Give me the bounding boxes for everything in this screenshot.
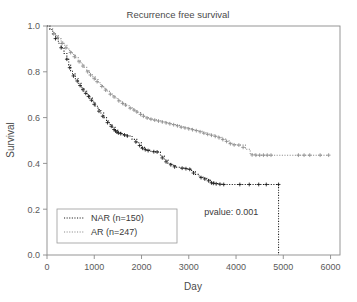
x-tick-label: 1000 bbox=[84, 262, 104, 272]
x-tick-label: 3000 bbox=[179, 262, 199, 272]
x-tick-label: 4000 bbox=[226, 262, 246, 272]
x-tick-label: 0 bbox=[44, 262, 49, 272]
legend-box: NAR (n=150)AR (n=247) bbox=[57, 209, 177, 243]
y-tick-label: 1.0 bbox=[27, 21, 40, 31]
chart-canvas: Recurrence free survival 010002000300040… bbox=[0, 0, 357, 302]
y-tick-label: 0.0 bbox=[27, 250, 40, 260]
y-axis-title: Survival bbox=[5, 122, 16, 158]
x-axis-title: Day bbox=[184, 281, 202, 292]
survival-chart: Recurrence free survival 010002000300040… bbox=[0, 0, 357, 302]
x-tick-label: 5000 bbox=[273, 262, 293, 272]
x-tick-label: 2000 bbox=[132, 262, 152, 272]
legend-label: AR (n=247) bbox=[91, 227, 137, 237]
chart-background bbox=[0, 0, 357, 302]
y-tick-label: 0.2 bbox=[27, 205, 40, 215]
legend-label: NAR (n=150) bbox=[91, 213, 144, 223]
x-tick-label: 6000 bbox=[321, 262, 341, 272]
chart-title: Recurrence free survival bbox=[127, 9, 230, 20]
y-tick-label: 0.6 bbox=[27, 113, 40, 123]
y-tick-label: 0.8 bbox=[27, 67, 40, 77]
y-tick-label: 0.4 bbox=[27, 159, 40, 169]
annotation-layer: pvalue: 0.001 bbox=[204, 207, 258, 217]
pvalue-annotation: pvalue: 0.001 bbox=[204, 207, 258, 217]
